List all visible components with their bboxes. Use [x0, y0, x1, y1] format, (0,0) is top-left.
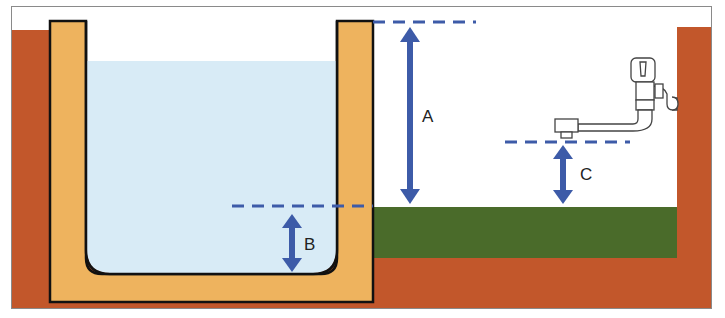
label-a: A — [422, 107, 433, 127]
faucet-icon — [555, 58, 678, 138]
label-b: B — [304, 235, 315, 255]
pool-water — [87, 61, 336, 273]
grass — [373, 207, 677, 258]
diagram-canvas — [0, 0, 725, 318]
brick-wall — [677, 27, 711, 308]
label-c: C — [580, 165, 592, 185]
